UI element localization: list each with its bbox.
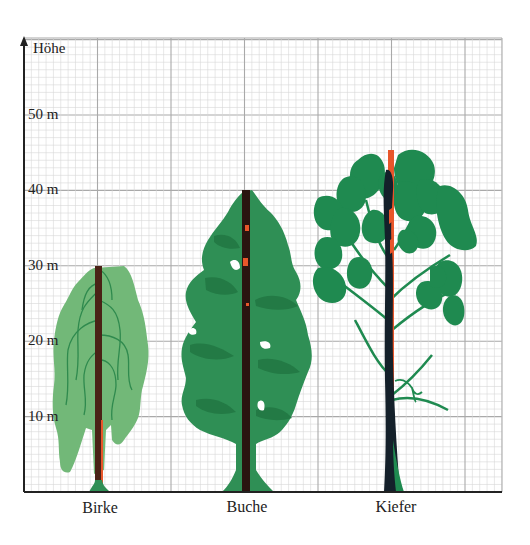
chart-canvas — [0, 0, 530, 545]
tree-height-chart: Höhe 50 m 40 m 30 m 20 m 10 m Birke Buch… — [0, 0, 530, 545]
buche-measure-mark — [246, 303, 249, 306]
birke-trunk — [95, 266, 102, 492]
x-label-buche: Buche — [227, 499, 268, 515]
buche-measure-mark — [245, 225, 249, 231]
x-label-birke: Birke — [82, 500, 118, 516]
y-tick-label-50: 50 m — [28, 107, 58, 122]
x-label-kiefer: Kiefer — [376, 499, 417, 515]
y-tick-label-30: 30 m — [28, 258, 58, 273]
kiefer-foliage — [313, 150, 477, 326]
y-tick-label-10: 10 m — [28, 409, 58, 424]
kiefer-bark-highlight — [390, 238, 393, 254]
birke-base — [89, 480, 110, 492]
y-tick-label-20: 20 m — [28, 333, 58, 348]
y-axis-title: Höhe — [33, 41, 66, 56]
buche-trunk — [242, 190, 250, 492]
tree-kiefer — [313, 150, 477, 492]
buche-measure-mark — [243, 258, 248, 266]
kiefer-bark-highlight — [389, 208, 392, 224]
y-tick-label-40: 40 m — [28, 182, 58, 197]
